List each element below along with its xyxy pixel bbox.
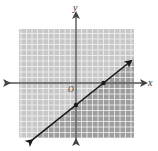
marked-point	[74, 103, 78, 107]
graph-figure: x y O	[0, 0, 158, 151]
coordinate-plane: x y O	[0, 0, 158, 151]
origin-label: O	[68, 85, 74, 94]
marked-point	[101, 81, 105, 85]
y-axis-label: y	[72, 2, 78, 13]
x-axis-label: x	[147, 77, 153, 88]
